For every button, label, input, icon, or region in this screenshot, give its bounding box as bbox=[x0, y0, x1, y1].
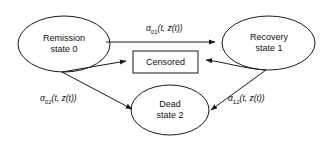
edge-label-alpha02: α02(t, z(t)) bbox=[40, 93, 77, 103]
edge-label-alpha12: α12(t, z(t)) bbox=[228, 93, 265, 103]
transition-diagram: Remission state 0 Recovery state 1 Dead … bbox=[0, 0, 328, 143]
node-remission-shape[interactable] bbox=[18, 16, 110, 72]
edge-label-alpha01-subscript: 01 bbox=[151, 29, 158, 35]
edge-label-alpha02-subscript: 02 bbox=[45, 99, 52, 105]
node-censored-shape[interactable] bbox=[133, 51, 198, 73]
edge-label-alpha12-subscript: 12 bbox=[233, 99, 240, 105]
edge-remission-to-dead bbox=[62, 72, 132, 109]
node-dead-shape[interactable] bbox=[131, 85, 209, 135]
diagram-canvas bbox=[0, 0, 328, 143]
node-recovery-shape[interactable] bbox=[222, 16, 315, 70]
edge-label-alpha01-args: (t, z(t)) bbox=[158, 23, 183, 33]
edge-label-alpha02-args: (t, z(t)) bbox=[52, 93, 77, 103]
edge-label-alpha12-args: (t, z(t)) bbox=[240, 93, 265, 103]
edge-label-alpha01: α01(t, z(t)) bbox=[146, 23, 183, 33]
